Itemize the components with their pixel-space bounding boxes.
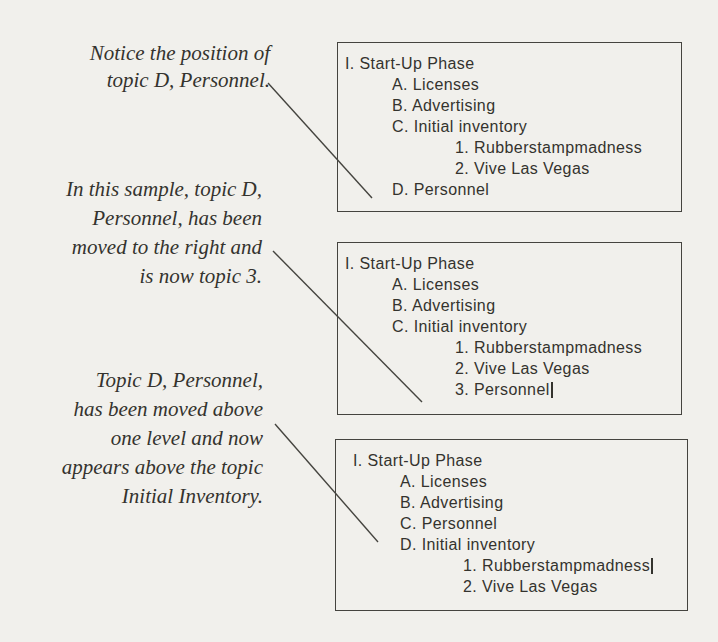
- outline-box-original: I. Start-Up PhaseA. LicensesB. Advertisi…: [337, 42, 682, 212]
- outline-item: I. Start-Up Phase: [353, 450, 683, 471]
- outline-item: 3. Personnel: [455, 379, 677, 400]
- outline-item: I. Start-Up Phase: [345, 253, 677, 274]
- outline-item-text: 1. Rubberstampmadness: [455, 139, 642, 156]
- outline-item-text: 3. Personnel: [455, 381, 550, 398]
- outline-item-text: I. Start-Up Phase: [345, 255, 475, 272]
- outline-box-moved-right: I. Start-Up PhaseA. LicensesB. Advertisi…: [337, 242, 682, 415]
- outline-item-text: 2. Vive Las Vegas: [455, 160, 590, 177]
- outline-item: D. Personnel: [392, 179, 677, 200]
- outline-item-text: B. Advertising: [392, 297, 495, 314]
- outline-item-text: 1. Rubberstampmadness: [455, 339, 642, 356]
- outline-item: I. Start-Up Phase: [345, 53, 677, 74]
- outline-item-text: C. Initial inventory: [392, 118, 527, 135]
- outline-item: C. Initial inventory: [392, 116, 677, 137]
- outline-item: 2. Vive Las Vegas: [455, 158, 677, 179]
- outline-item: 1. Rubberstampmadness: [455, 337, 677, 358]
- outline-item-text: A. Licenses: [392, 76, 479, 93]
- outline-item-text: C. Initial inventory: [392, 318, 527, 335]
- outline-item: B. Advertising: [392, 95, 677, 116]
- outline-item-text: D. Initial inventory: [400, 536, 535, 553]
- outline-item: 1. Rubberstampmadness: [463, 555, 683, 576]
- outline-item-text: I. Start-Up Phase: [353, 452, 483, 469]
- annotation-moved-above: Topic D, Personnel, has been moved above…: [8, 366, 263, 511]
- outline-item-text: 2. Vive Las Vegas: [463, 578, 598, 595]
- outline-item: B. Advertising: [400, 492, 683, 513]
- insertion-cursor-icon: [551, 382, 553, 398]
- annotation-moved-right: In this sample, topic D, Personnel, has …: [8, 175, 262, 291]
- outline-item: 2. Vive Las Vegas: [463, 576, 683, 597]
- page: Notice the position of topic D, Personne…: [0, 0, 718, 642]
- outline-item-text: D. Personnel: [392, 181, 489, 198]
- outline-item-text: 1. Rubberstampmadness: [463, 557, 650, 574]
- outline-item: 1. Rubberstampmadness: [455, 137, 677, 158]
- outline-item: 2. Vive Las Vegas: [455, 358, 677, 379]
- outline-item-text: B. Advertising: [392, 97, 495, 114]
- outline-item-text: A. Licenses: [392, 276, 479, 293]
- outline-item-text: B. Advertising: [400, 494, 503, 511]
- outline-item: A. Licenses: [392, 274, 677, 295]
- outline-box-moved-above: I. Start-Up PhaseA. LicensesB. Advertisi…: [335, 439, 688, 611]
- outline-item-text: A. Licenses: [400, 473, 487, 490]
- outline-item-text: C. Personnel: [400, 515, 497, 532]
- outline-item-text: 2. Vive Las Vegas: [455, 360, 590, 377]
- annotation-notice-position: Notice the position of topic D, Personne…: [8, 40, 270, 94]
- outline-item: C. Initial inventory: [392, 316, 677, 337]
- outline-item: C. Personnel: [400, 513, 683, 534]
- outline-item: A. Licenses: [400, 471, 683, 492]
- outline-item-text: I. Start-Up Phase: [345, 55, 475, 72]
- outline-item: B. Advertising: [392, 295, 677, 316]
- outline-item: A. Licenses: [392, 74, 677, 95]
- insertion-cursor-icon: [651, 558, 653, 574]
- outline-item: D. Initial inventory: [400, 534, 683, 555]
